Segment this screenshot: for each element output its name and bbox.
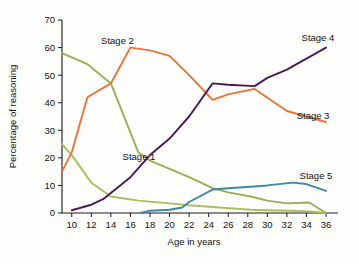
x-tick-label-34: 34 <box>301 219 312 230</box>
series-line-stage-4 <box>72 48 326 211</box>
series-label-stage-2: Stage 2 <box>101 35 134 46</box>
line-chart: 0102030405060701012141618202224262830323… <box>0 0 359 264</box>
y-tick-label-60: 60 <box>44 42 55 53</box>
y-tick-label-0: 0 <box>50 207 55 218</box>
x-tick-label-14: 14 <box>106 219 117 230</box>
series-label-stage-3: Stage 3 <box>297 110 330 121</box>
y-tick-label-30: 30 <box>44 125 55 136</box>
y-tick-label-70: 70 <box>44 14 55 25</box>
y-tick-label-20: 20 <box>44 152 55 163</box>
y-axis-title: Percentage of reasoning <box>7 65 18 169</box>
x-tick-label-30: 30 <box>262 219 273 230</box>
y-tick-label-50: 50 <box>44 70 55 81</box>
x-tick-label-32: 32 <box>282 219 293 230</box>
x-tick-label-28: 28 <box>242 219 253 230</box>
x-tick-label-18: 18 <box>145 219 156 230</box>
x-axis-title: Age in years <box>168 236 221 247</box>
x-tick-label-26: 26 <box>223 219 234 230</box>
x-tick-label-20: 20 <box>164 219 175 230</box>
series-label-stage-1: Stage 1 <box>123 151 156 162</box>
x-tick-label-12: 12 <box>86 219 97 230</box>
series-label-stage-4: Stage 4 <box>302 32 335 43</box>
chart-canvas: 0102030405060701012141618202224262830323… <box>0 0 359 264</box>
x-tick-label-10: 10 <box>66 219 77 230</box>
y-tick-label-10: 10 <box>44 180 55 191</box>
x-tick-label-16: 16 <box>125 219 136 230</box>
series-label-stage-5: Stage 5 <box>300 170 333 181</box>
x-tick-label-22: 22 <box>184 219 195 230</box>
y-tick-label-40: 40 <box>44 97 55 108</box>
x-tick-label-24: 24 <box>203 219 214 230</box>
x-tick-label-36: 36 <box>321 219 332 230</box>
